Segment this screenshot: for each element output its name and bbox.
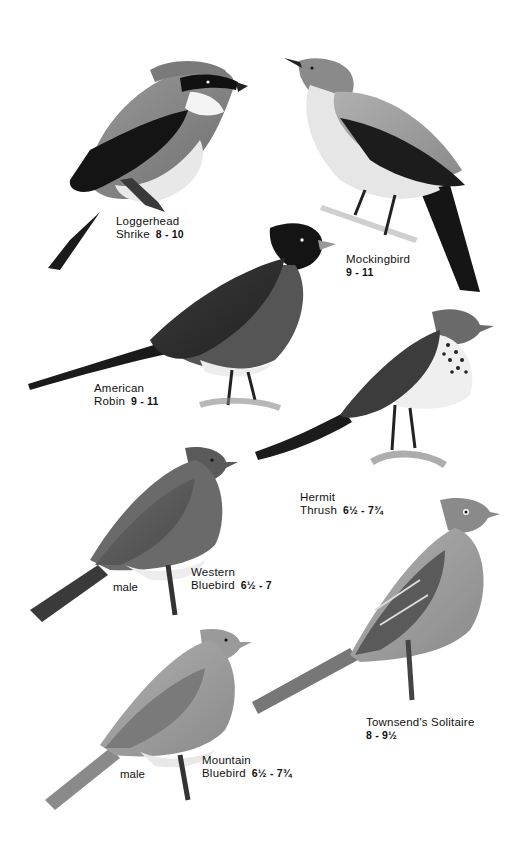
- bird-name-line: Bluebird: [202, 767, 246, 779]
- bird-american-robin: [28, 223, 336, 408]
- label-mountain-bluebird: Mountain Bluebird6½ - 7¾: [202, 754, 292, 780]
- bird-size: 6½ - 7¾: [343, 504, 383, 516]
- bird-name-line: Bluebird: [191, 579, 235, 591]
- label-western-bluebird: Western Bluebird6½ - 7: [191, 566, 272, 592]
- label-loggerhead-shrike: Loggerhead Shrike8 - 10: [116, 215, 184, 241]
- bird-name-line: Hermit: [300, 491, 383, 504]
- label-mockingbird: Mockingbird 9 - 11: [346, 253, 410, 279]
- bird-name-line: Robin: [94, 395, 125, 407]
- bird-townsends-solitaire: [252, 498, 500, 714]
- bird-size: 9 - 11: [346, 266, 410, 279]
- bird-size: 6½ - 7¾: [252, 767, 292, 779]
- bird-name-line: Mockingbird: [346, 253, 410, 266]
- bird-size: 8 - 9½: [366, 729, 474, 742]
- sex-label-western-bluebird: male: [113, 581, 138, 593]
- bird-name-line: Townsend's Solitaire: [366, 716, 474, 729]
- label-townsends-solitaire: Townsend's Solitaire 8 - 9½: [366, 716, 474, 742]
- bird-name-line: Thrush: [300, 504, 337, 516]
- label-hermit-thrush: Hermit Thrush6½ - 7¾: [300, 491, 383, 517]
- bird-western-bluebird: [30, 447, 238, 622]
- bird-size: 8 - 10: [156, 228, 184, 240]
- bird-name-line: American: [94, 382, 159, 395]
- bird-plate: Loggerhead Shrike8 - 10 Mockingbird 9 - …: [0, 0, 524, 844]
- bird-name-line: Western: [191, 566, 272, 579]
- bird-size: 6½ - 7: [241, 579, 272, 591]
- bird-name-line: Loggerhead: [116, 215, 184, 228]
- bird-name-line: Shrike: [116, 228, 150, 240]
- bird-mountain-bluebird: [45, 629, 252, 810]
- label-american-robin: American Robin9 - 11: [94, 382, 159, 408]
- bird-name-line: Mountain: [202, 754, 292, 767]
- sex-label-mountain-bluebird: male: [120, 768, 145, 780]
- bird-size: 9 - 11: [131, 395, 158, 407]
